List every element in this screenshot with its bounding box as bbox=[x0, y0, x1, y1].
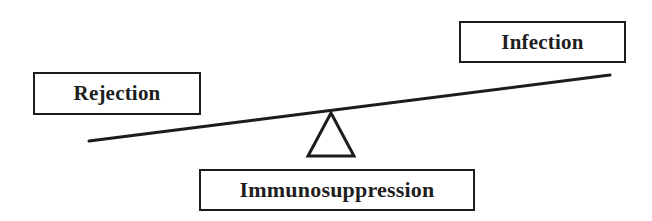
immunosuppression-label-box: Immunosuppression bbox=[199, 169, 475, 211]
rejection-label: Rejection bbox=[74, 81, 161, 106]
rejection-label-box: Rejection bbox=[33, 72, 201, 115]
immunosuppression-label: Immunosuppression bbox=[240, 177, 435, 203]
infection-label-box: Infection bbox=[459, 21, 626, 63]
infection-label: Infection bbox=[501, 30, 583, 55]
fulcrum-triangle-icon bbox=[308, 113, 354, 156]
seesaw-diagram: Rejection Infection Immunosuppression bbox=[0, 0, 652, 221]
